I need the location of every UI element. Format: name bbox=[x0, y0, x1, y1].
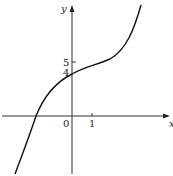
x-axis-label: x bbox=[169, 118, 173, 129]
y-tick-4-label: 4 bbox=[63, 67, 69, 78]
cubic-function-graph: y x 0 1 5 4 bbox=[0, 0, 173, 176]
origin-label: 0 bbox=[63, 118, 69, 129]
y-axis-label: y bbox=[60, 3, 67, 14]
y-axis-arrow-icon bbox=[70, 5, 75, 12]
function-curve bbox=[15, 5, 141, 174]
x-tick-1-label: 1 bbox=[89, 118, 95, 129]
